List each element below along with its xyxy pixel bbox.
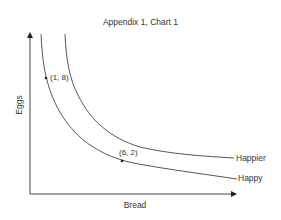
happy-curve [41,34,237,179]
chart-title: Appendix 1, Chart 1 [0,17,281,27]
happier-curve-label: Happier [236,153,266,163]
happier-curve [65,34,234,158]
indifference-curve-chart: Appendix 1, Chart 1 Eggs Bread Happier H… [0,0,281,220]
point-6-2-marker [121,160,124,163]
x-axis-label: Bread [105,200,165,210]
point-6-2-label: (6, 2) [119,148,138,157]
y-axis-label: Eggs [14,90,24,120]
happy-curve-label: Happy [238,173,263,183]
chart-canvas [0,0,281,220]
point-1-8-label: (1, 8) [50,73,69,82]
point-1-8-marker [45,77,48,80]
